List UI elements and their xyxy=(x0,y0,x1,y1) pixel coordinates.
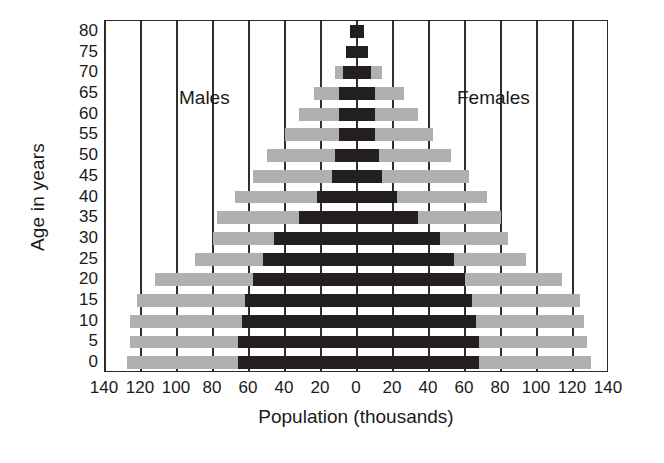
bar-row xyxy=(105,294,607,307)
bar-row xyxy=(105,46,607,59)
y-tick-label: 70 xyxy=(52,63,98,80)
x-axis-tick-labels: 14012010080604020020406080100120140 xyxy=(104,378,608,400)
bar-males-inner xyxy=(242,315,357,328)
bar-row xyxy=(105,128,607,141)
bar-males-inner xyxy=(253,273,357,286)
x-axis-title: Population (thousands) xyxy=(104,406,608,428)
y-tick-label: 25 xyxy=(52,250,98,267)
bar-males-inner xyxy=(274,232,357,245)
bar-males-inner xyxy=(335,149,357,162)
bar-females-inner xyxy=(357,87,375,100)
y-tick-label: 5 xyxy=(52,332,98,349)
bar-males-inner xyxy=(299,211,357,224)
y-axis-title: Age in years xyxy=(27,87,49,307)
bar-row xyxy=(105,211,607,224)
bar-row xyxy=(105,25,607,38)
bar-females-inner xyxy=(357,273,465,286)
y-tick-label: 65 xyxy=(52,84,98,101)
y-tick-label: 80 xyxy=(52,22,98,39)
series-caption-males: Males xyxy=(179,87,230,109)
bar-females-inner xyxy=(357,232,440,245)
y-axis-tick-labels: 80757065605550454035302520151050 xyxy=(52,20,98,372)
y-tick-label: 40 xyxy=(52,188,98,205)
bar-males-inner xyxy=(317,191,357,204)
plot-area: Males Females xyxy=(104,20,608,372)
y-tick-label: 55 xyxy=(52,125,98,142)
y-tick-label: 75 xyxy=(52,43,98,60)
y-tick-label: 0 xyxy=(52,353,98,370)
bar-row xyxy=(105,66,607,79)
bar-males-inner xyxy=(332,170,357,183)
bar-row xyxy=(105,191,607,204)
bar-males-inner xyxy=(238,356,357,369)
bar-males-inner xyxy=(245,294,357,307)
y-tick-label: 45 xyxy=(52,167,98,184)
y-tick-label: 35 xyxy=(52,208,98,225)
bar-row xyxy=(105,336,607,349)
bar-row xyxy=(105,356,607,369)
bar-males-inner xyxy=(339,87,357,100)
bar-females-inner xyxy=(357,46,368,59)
bar-males-inner xyxy=(238,336,357,349)
y-tick-label: 30 xyxy=(52,229,98,246)
bar-males-inner xyxy=(263,253,357,266)
bar-females-inner xyxy=(357,336,479,349)
bar-males-inner xyxy=(339,108,357,121)
x-tick-label: 140 xyxy=(585,378,631,398)
bar-females-inner xyxy=(357,25,364,38)
bar-row xyxy=(105,315,607,328)
bar-row xyxy=(105,273,607,286)
bar-males-inner xyxy=(339,128,357,141)
bar-males-inner xyxy=(350,25,357,38)
bar-males-inner xyxy=(346,46,357,59)
bar-females-inner xyxy=(357,211,418,224)
y-tick-label: 50 xyxy=(52,146,98,163)
bar-females-inner xyxy=(357,170,382,183)
bar-females-inner xyxy=(357,128,375,141)
series-caption-females: Females xyxy=(457,87,530,109)
bar-females-inner xyxy=(357,294,472,307)
y-tick-label: 60 xyxy=(52,105,98,122)
bar-row xyxy=(105,170,607,183)
bar-males-inner xyxy=(343,66,357,79)
bar-row xyxy=(105,232,607,245)
bar-females-inner xyxy=(357,191,397,204)
bar-females-inner xyxy=(357,315,476,328)
bar-row xyxy=(105,253,607,266)
bar-females-inner xyxy=(357,149,379,162)
y-tick-label: 10 xyxy=(52,312,98,329)
population-pyramid-figure: Age in years 807570656055504540353025201… xyxy=(0,0,664,463)
bar-females-inner xyxy=(357,108,375,121)
bar-row xyxy=(105,149,607,162)
bar-females-inner xyxy=(357,66,371,79)
bar-row xyxy=(105,108,607,121)
bar-females-inner xyxy=(357,356,479,369)
bar-females-inner xyxy=(357,253,454,266)
y-tick-label: 20 xyxy=(52,270,98,287)
y-tick-label: 15 xyxy=(52,291,98,308)
